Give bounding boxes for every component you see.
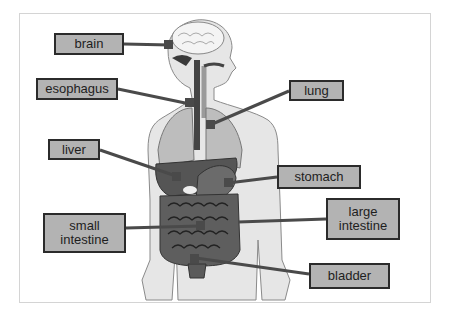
label-stomach: stomach — [277, 165, 361, 189]
brain-shape — [172, 22, 224, 54]
label-large-intestine: large intestine — [326, 198, 400, 240]
label-small-intestine: small intestine — [43, 213, 126, 253]
label-esophagus: esophagus — [36, 78, 118, 100]
label-liver: liver — [48, 139, 100, 160]
label-brain: brain — [54, 33, 124, 55]
label-bladder: bladder — [309, 263, 390, 289]
bladder-shape — [188, 264, 206, 278]
label-lung: lung — [289, 80, 344, 101]
